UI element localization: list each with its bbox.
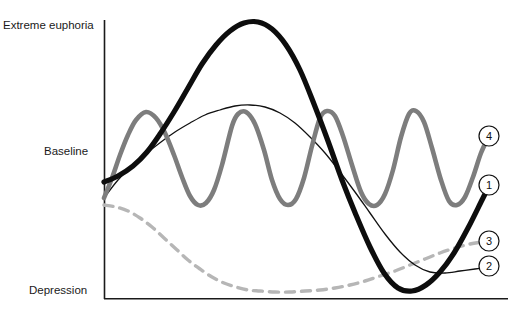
marker-label-2: 2 <box>486 260 492 272</box>
y-axis-label-extreme-euphoria: Extreme euphoria <box>3 20 94 32</box>
marker-label-3: 3 <box>486 235 492 247</box>
marker-label-4: 4 <box>486 130 492 142</box>
y-axis-label-baseline: Baseline <box>44 146 88 158</box>
chart-series-group <box>104 21 489 292</box>
series-marker-2: 2 <box>479 256 499 276</box>
chart-plot-area: 1234 <box>0 0 514 318</box>
series-line-1 <box>104 21 489 291</box>
series-marker-4: 4 <box>479 126 499 146</box>
mood-course-chart: 1234 Extreme euphoria Baseline Depressio… <box>0 0 514 318</box>
chart-axes <box>104 20 508 299</box>
series-marker-3: 3 <box>479 231 499 251</box>
series-marker-1: 1 <box>479 175 499 195</box>
y-axis-label-depression: Depression <box>29 285 87 297</box>
marker-label-1: 1 <box>486 179 492 191</box>
